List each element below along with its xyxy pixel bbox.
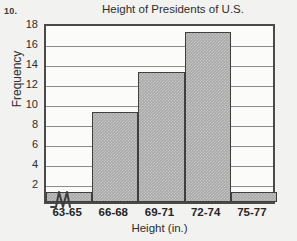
y-axis-tick-label: 4 — [32, 158, 38, 170]
y-axis-tick-label: 16 — [26, 38, 38, 50]
bars-container — [46, 26, 273, 202]
bar — [185, 32, 231, 202]
problem-number: 10. — [4, 6, 17, 16]
chart-title: Height of Presidents of U.S. — [60, 3, 286, 15]
y-axis-label: Frequency — [10, 24, 24, 134]
x-axis-tick-label: 66-68 — [99, 206, 128, 218]
x-axis-ticks: 63-6566-6869-7172-7475-77 — [44, 206, 275, 222]
y-axis-tick-label: 14 — [26, 58, 38, 70]
plot-area — [44, 24, 275, 204]
y-axis-tick-label: 10 — [26, 98, 38, 110]
y-axis-tick-label: 12 — [26, 78, 38, 90]
y-axis-tick-label: 2 — [32, 178, 38, 190]
y-axis-tick-label: 8 — [32, 118, 38, 130]
histogram-figure: 10. Height of Presidents of U.S. 2468101… — [0, 0, 297, 241]
x-axis-tick-label: 63-65 — [52, 206, 81, 218]
x-axis-tick-label: 72-74 — [191, 206, 220, 218]
y-axis-tick-label: 6 — [32, 138, 38, 150]
x-axis-label: Height (in.) — [44, 222, 275, 234]
axis-break-icon — [50, 188, 72, 208]
x-axis-tick-label: 75-77 — [237, 206, 266, 218]
x-axis-tick-label: 69-71 — [145, 206, 174, 218]
bar — [138, 72, 184, 202]
y-axis-tick-label: 18 — [26, 18, 38, 30]
bar — [231, 192, 277, 202]
bar — [92, 112, 138, 202]
